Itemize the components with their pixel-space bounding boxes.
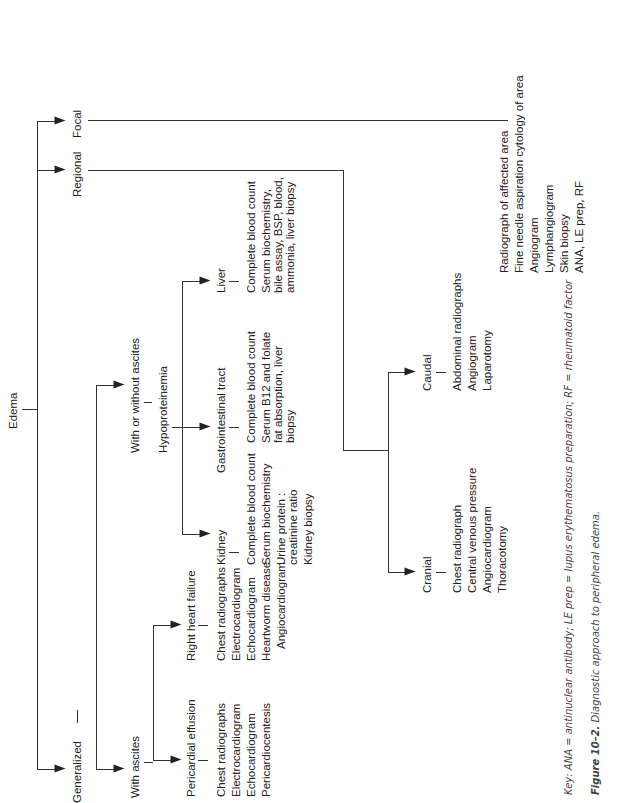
node-with-or-without-ascites: With or without ascites bbox=[128, 338, 142, 453]
arrow-icon bbox=[114, 381, 125, 389]
liver-tests: Complete blood countSerum biochemistry,b… bbox=[244, 177, 298, 293]
connector bbox=[96, 386, 97, 770]
pericardial-tests: Chest radiographsElectrocardiogramEchoca… bbox=[214, 703, 274, 797]
connector bbox=[144, 762, 153, 763]
node-generalized: Generalized bbox=[70, 741, 84, 803]
arrow-icon bbox=[200, 277, 211, 285]
connector bbox=[436, 572, 446, 573]
connector bbox=[343, 170, 344, 451]
connector bbox=[388, 373, 389, 573]
node-kidney: Kidney bbox=[214, 530, 228, 565]
connector bbox=[153, 626, 154, 761]
arrow-icon bbox=[55, 765, 66, 773]
node-pericardial-effusion: Pericardial effusion bbox=[184, 699, 198, 797]
node-hypoproteinemia: Hypoproteinemia bbox=[156, 366, 170, 453]
arrow-icon bbox=[200, 423, 211, 431]
node-caudal: Caudal bbox=[420, 355, 434, 391]
connector bbox=[229, 552, 239, 553]
node-focal: Focal bbox=[70, 110, 84, 138]
arrow-icon bbox=[405, 568, 416, 576]
node-cranial: Cranial bbox=[420, 557, 434, 593]
node-gi-tract: Gastrointestinal tract bbox=[214, 368, 228, 473]
rhf-tests: Chest radiographsElectrocardiogramEchoca… bbox=[214, 562, 289, 661]
flowchart-canvas: Edema Generalized Regional Focal Radiogr… bbox=[0, 0, 626, 803]
connector bbox=[182, 282, 183, 535]
kidney-tests: Complete blood countSerum biochemistryUr… bbox=[244, 453, 316, 565]
arrow-icon bbox=[55, 166, 66, 174]
connector bbox=[229, 281, 239, 282]
arrow-icon bbox=[200, 530, 211, 538]
connector bbox=[88, 120, 508, 121]
arrow-icon bbox=[171, 621, 182, 629]
connector bbox=[77, 711, 78, 723]
connector bbox=[144, 402, 152, 403]
node-edema: Edema bbox=[6, 393, 20, 429]
figure-label: Figure 10–2. bbox=[590, 726, 601, 795]
arrow-icon bbox=[55, 117, 66, 125]
caption-key: Key: ANA = antinuclear antibody; LE prep… bbox=[563, 280, 574, 795]
connector bbox=[88, 170, 343, 171]
arrow-icon bbox=[405, 368, 416, 376]
connector bbox=[436, 372, 446, 373]
connector bbox=[229, 427, 239, 428]
connector bbox=[22, 409, 37, 410]
connector bbox=[198, 625, 208, 626]
arrow-icon bbox=[171, 756, 182, 764]
gi-tests: Complete blood countSerum B12 and folate… bbox=[244, 331, 298, 443]
caudal-tests: Abdominal radiographsAngiogramLaparotomy bbox=[450, 273, 495, 391]
figure-title: Diagnostic approach to peripheral edema. bbox=[590, 511, 601, 723]
connector bbox=[37, 122, 38, 770]
node-with-ascites: With ascites bbox=[128, 736, 142, 798]
node-right-heart-failure: Right heart failure bbox=[184, 570, 198, 661]
node-regional: Regional bbox=[70, 152, 84, 197]
connector bbox=[77, 710, 78, 711]
figure-caption: Figure 10–2. Diagnostic approach to peri… bbox=[590, 511, 601, 795]
node-liver: Liver bbox=[214, 268, 228, 293]
arrow-icon bbox=[114, 765, 125, 773]
focal-tests: Radiograph of affected areaFine needle a… bbox=[497, 75, 587, 273]
cranial-tests: Chest radiographCentral venous pressureA… bbox=[450, 468, 510, 593]
connector bbox=[198, 760, 208, 761]
connector bbox=[343, 450, 388, 451]
connector bbox=[172, 427, 182, 428]
